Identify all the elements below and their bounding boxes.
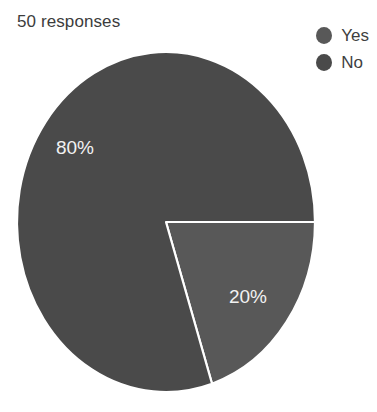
pie-svg: 80% 20% <box>0 0 377 412</box>
pie-slices-group <box>17 52 315 392</box>
pie-chart-panel: 50 responses Yes No 80% 20% <box>0 0 377 412</box>
slice-label-no: 80% <box>56 137 94 158</box>
slice-label-yes: 20% <box>229 286 267 307</box>
